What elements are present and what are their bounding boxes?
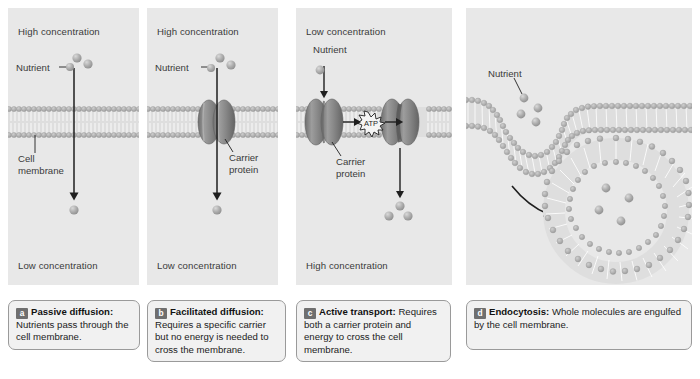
caption-title-a: Passive diffusion: — [31, 306, 113, 317]
nutrient-group-vesicle — [595, 184, 634, 226]
atp-text: ATP — [364, 119, 378, 128]
caption-badge-d: d — [474, 308, 486, 319]
caption-title-c: Active transport: — [319, 306, 396, 317]
caption-passive-diffusion: aPassive diffusion: Nutrients pass throu… — [8, 300, 140, 350]
caption-title-b: Facilitated diffusion: — [170, 306, 264, 317]
panel-endocytosis: Nutrient — [466, 8, 692, 285]
panel-b-graphic — [147, 8, 278, 285]
panel-passive-diffusion: High concentration Low concentration Nut… — [8, 8, 139, 285]
panel-d-nutrient-label: Nutrient — [488, 68, 522, 80]
panel-b-nutrient-label: Nutrient — [155, 62, 189, 74]
caption-endocytosis: dEndocytosis: Whole molecules are engulf… — [466, 300, 692, 350]
nutrient-leader — [514, 78, 522, 94]
panel-a-cell-membrane-label-line1: Cell — [18, 153, 35, 165]
caption-body-b: Requires a specific carrier but no energ… — [155, 319, 269, 355]
caption-badge-b: b — [155, 308, 167, 319]
panel-facilitated-diffusion: High concentration Low concentration Nut… — [147, 8, 278, 285]
panel-a-cell-membrane-label-line2: membrane — [18, 165, 64, 177]
panel-c-carrier-protein-label-line1: Carrier — [336, 156, 365, 168]
nutrient-group-below — [384, 201, 412, 220]
caption-active-transport: cActive transport: Requires both a carri… — [296, 300, 451, 362]
panel-b-bottom-concentration: Low concentration — [157, 260, 237, 271]
panel-b-carrier-protein-label-line2: protein — [229, 164, 258, 176]
caption-body-a: Nutrients pass through the cell membrane… — [16, 319, 129, 342]
carrier-protein-leader — [332, 142, 341, 156]
caption-badge-c: c — [304, 308, 316, 319]
nutrient-group-below — [212, 205, 221, 214]
panel-c-bottom-concentration: High concentration — [306, 260, 388, 271]
endocytosis-arrow — [512, 186, 548, 214]
nutrient-group-above — [207, 53, 236, 72]
panel-c-carrier-protein-label-line2: protein — [336, 168, 365, 180]
panel-a-top-concentration: High concentration — [18, 26, 100, 37]
caption-facilitated-diffusion: bFacilitated diffusion: Requires a speci… — [147, 300, 286, 362]
figure-canvas: High concentration Low concentration Nut… — [0, 0, 700, 379]
panel-b-top-concentration: High concentration — [157, 26, 239, 37]
panel-a-graphic — [8, 8, 139, 285]
panel-a-bottom-concentration: Low concentration — [18, 260, 98, 271]
nutrient-group-above — [316, 66, 325, 75]
nutrient-group-above — [66, 53, 93, 71]
panel-c-nutrient-label: Nutrient — [313, 44, 347, 56]
panel-b-carrier-protein-label-line1: Carrier — [229, 152, 258, 164]
panel-a-nutrient-label: Nutrient — [16, 62, 50, 74]
caption-badge-a: a — [16, 308, 28, 319]
panel-c-top-concentration: Low concentration — [306, 26, 386, 37]
panel-d-graphic — [466, 8, 692, 285]
carrier-protein-left — [305, 99, 343, 145]
vesicle — [542, 135, 692, 284]
caption-title-d: Endocytosis: — [489, 306, 549, 317]
nutrient-group-below — [69, 205, 78, 214]
panel-active-transport: ATP Low concentration High concentration… — [296, 8, 452, 285]
nutrient-group-pocket — [517, 94, 543, 127]
